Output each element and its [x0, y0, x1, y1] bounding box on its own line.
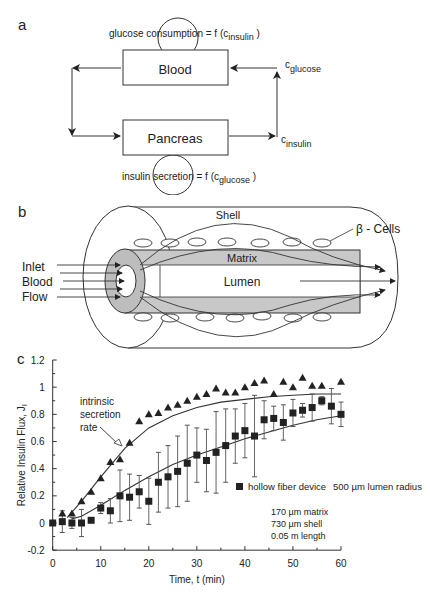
square-marker [280, 419, 287, 426]
triangle-marker [145, 410, 153, 417]
panel-b-diagram: Shell β - Cells Matrix Lumen Inlet Blood… [0, 195, 430, 355]
square-marker [338, 411, 345, 418]
flow-label: Flow [22, 290, 48, 304]
triangle-marker [183, 397, 191, 404]
triangle-marker [193, 393, 201, 400]
y-tick-label: 0.8 [31, 409, 45, 420]
square-marker [299, 407, 306, 414]
x-axis-label: Time, t (min) [169, 574, 225, 585]
triangle-marker [231, 389, 239, 396]
triangle-marker [299, 374, 307, 381]
square-marker [136, 488, 143, 495]
square-marker [165, 473, 172, 480]
square-marker [78, 520, 85, 527]
panel-a-diagram: Blood Pancreas glucose consumption = f (… [0, 0, 430, 195]
triangle-marker [202, 390, 210, 397]
square-marker [318, 397, 325, 404]
square-marker [107, 507, 114, 514]
y-tick-label: 0.4 [31, 463, 45, 474]
c-insulin-label: cinsulin [281, 134, 312, 149]
inlet-label: Inlet [22, 260, 45, 274]
square-marker [261, 416, 268, 423]
triangle-marker [58, 509, 66, 516]
square-marker [270, 415, 277, 422]
triangle-marker [318, 382, 326, 389]
x-tick-label: 60 [335, 558, 347, 569]
square-marker [49, 520, 56, 527]
square-marker [184, 460, 191, 467]
y-tick-label: 1.2 [31, 355, 45, 366]
square-marker [222, 442, 229, 449]
device-param: 0.05 m length [271, 531, 326, 541]
lumen-label: Lumen [224, 275, 261, 289]
y-tick-label: 0.2 [31, 490, 45, 501]
square-marker [213, 449, 220, 456]
triangle-marker [308, 382, 316, 389]
triangle-marker [164, 404, 172, 411]
square-marker [251, 433, 258, 440]
triangle-marker [289, 383, 297, 390]
square-marker [88, 517, 95, 524]
x-tick-label: 0 [50, 558, 56, 569]
triangle-marker [116, 455, 124, 462]
square-marker [309, 404, 316, 411]
legend-label: hollow fiber device [248, 481, 326, 492]
box-blood: Blood [158, 62, 191, 77]
y-axis-label: Relative Insulin Flux, JI [16, 404, 29, 506]
square-marker [174, 468, 181, 475]
triangle-marker [270, 390, 278, 397]
insulin-secretion-label: insulin secretion = f (cglucose ) [122, 171, 256, 185]
square-marker [155, 479, 162, 486]
triangle-marker [279, 378, 287, 385]
square-marker [232, 433, 239, 440]
y-tick-label: 0 [39, 518, 45, 529]
beta-cells-label: β - Cells [356, 222, 400, 236]
x-tick-label: 40 [239, 558, 251, 569]
triangle-marker [154, 409, 162, 416]
square-marker [126, 494, 133, 501]
square-marker [97, 505, 104, 512]
y-tick-label: 1 [39, 382, 45, 393]
c-glucose-label: cglucose [285, 59, 321, 74]
matrix-label: Matrix [227, 252, 257, 264]
triangle-marker [87, 488, 95, 495]
y-tick-label: -0.2 [27, 545, 45, 556]
intrinsic-annotation: rate [80, 422, 98, 433]
square-marker [59, 518, 66, 525]
square-marker [116, 492, 123, 499]
shell-label: Shell [216, 209, 240, 221]
y-tick-label: 0.6 [31, 436, 45, 447]
insulin-flux-chart: -0.200.20.40.60.811.20102030405060Time, … [0, 350, 430, 594]
device-param: 730 µm shell [271, 519, 322, 529]
blood-label: Blood [22, 275, 53, 289]
box-pancreas: Pancreas [148, 131, 203, 146]
square-marker [203, 457, 210, 464]
square-marker [289, 409, 296, 416]
triangle-marker [260, 376, 268, 383]
x-tick-label: 50 [287, 558, 299, 569]
square-marker [68, 520, 75, 527]
legend-square-icon [236, 483, 243, 490]
triangle-marker [68, 509, 76, 516]
square-marker [241, 427, 248, 434]
glucose-consumption-label: glucose consumption = f (cinsulin ) [109, 28, 260, 42]
triangle-marker [174, 401, 182, 408]
square-marker [193, 452, 200, 459]
device-param: 170 µm matrix [271, 507, 329, 517]
triangle-marker [135, 417, 143, 424]
x-tick-label: 20 [143, 558, 155, 569]
legend-param: 500 µm lumen radius [333, 481, 422, 492]
square-marker [328, 403, 335, 410]
triangle-marker [97, 474, 105, 481]
x-tick-label: 30 [191, 558, 203, 569]
triangle-marker [241, 383, 249, 390]
triangle-marker [212, 385, 220, 392]
triangle-marker [222, 389, 230, 396]
intrinsic-annotation: intrinsic [80, 396, 114, 407]
triangle-marker [251, 379, 259, 386]
x-tick-label: 10 [95, 558, 107, 569]
triangle-marker [337, 378, 345, 385]
intrinsic-annotation: secretion [80, 409, 121, 420]
square-marker [145, 498, 152, 505]
